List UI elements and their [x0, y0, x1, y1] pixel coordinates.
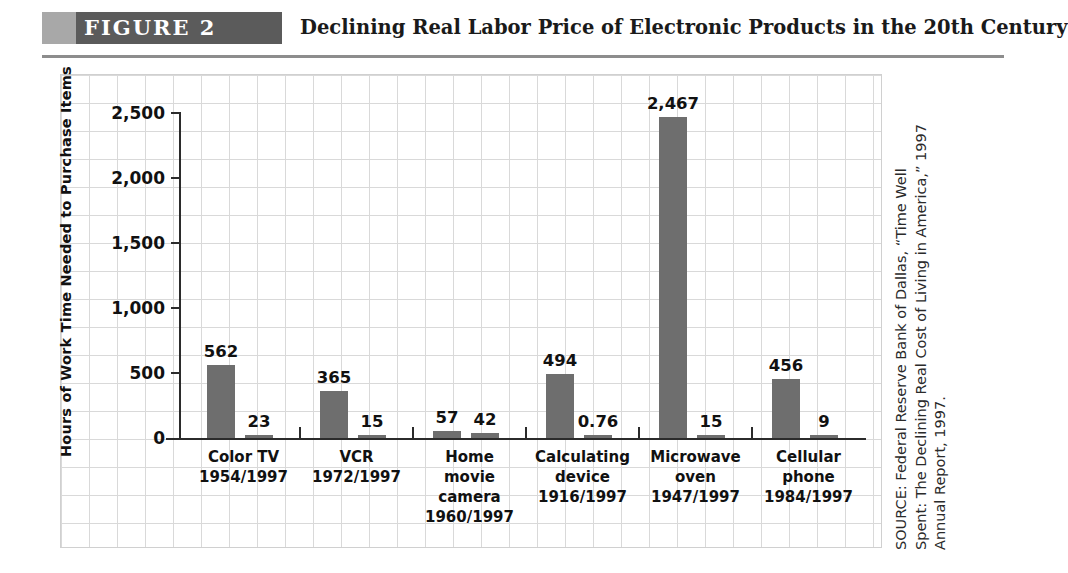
bar: [659, 117, 687, 438]
category-label-line: 1984/1997: [734, 487, 884, 507]
figure-number-label: FIGURE 2: [84, 12, 216, 44]
bar-value-label: 42: [449, 411, 521, 428]
figure-header: FIGURE 2 Declining Real Labor Price of E…: [0, 0, 1017, 62]
category-label-line: 1960/1997: [395, 507, 545, 527]
plot-area: 562233651557424940.762,467154569: [181, 113, 864, 438]
bar-value-label: 23: [223, 413, 295, 430]
category-label-line: phone: [734, 467, 884, 487]
bar: [358, 435, 386, 438]
bar-group: 4569: [752, 113, 865, 438]
y-axis-tick-label: 2,000: [95, 170, 165, 187]
figure-banner-cap: [42, 12, 76, 44]
y-axis-tick-label: 1,000: [95, 300, 165, 317]
source-note: SOURCE: Federal Reserve Bank of Dallas, …: [892, 120, 951, 550]
bar: [697, 435, 725, 438]
chart-area: Hours of Work Time Needed to Purchase It…: [60, 74, 882, 548]
bar: [810, 435, 838, 438]
bar-value-label: 15: [675, 413, 747, 430]
y-axis-tick-label: 500: [95, 365, 165, 382]
bar-group: 2,46715: [639, 113, 752, 438]
bar-value-label: 9: [788, 413, 860, 430]
x-axis-category-label: Cellularphone1984/1997: [734, 447, 884, 507]
y-axis-tick: [171, 242, 181, 244]
bar-group: 36515: [300, 113, 413, 438]
y-axis-title: Hours of Work Time Needed to Purchase It…: [55, 77, 77, 457]
bar-value-label: 365: [298, 369, 370, 386]
y-axis-tick: [171, 112, 181, 114]
bar-value-label: 456: [750, 357, 822, 374]
x-axis-line: [166, 438, 866, 440]
y-axis-tick: [171, 177, 181, 179]
bar: [245, 435, 273, 438]
header-divider: [42, 55, 1004, 58]
y-axis-tick: [171, 372, 181, 374]
bar-group: 56223: [187, 113, 300, 438]
bar-value-label: 2,467: [637, 95, 709, 112]
bar-value-label: 562: [185, 343, 257, 360]
bar-group: 4940.76: [526, 113, 639, 438]
y-axis-tick: [171, 307, 181, 309]
bar: [433, 431, 461, 438]
figure-title: Declining Real Labor Price of Electronic…: [300, 13, 1068, 43]
bar-value-label: 494: [524, 352, 596, 369]
y-axis-tick-label: 1,500: [95, 235, 165, 252]
y-axis-tick-label: 0: [95, 430, 165, 447]
bar-value-label: 15: [336, 413, 408, 430]
bar: [584, 435, 612, 438]
bar: [471, 433, 499, 438]
bar-group: 5742: [413, 113, 526, 438]
bar-value-label: 0.76: [562, 413, 634, 430]
y-axis-tick-label: 2,500: [95, 105, 165, 122]
category-label-line: Cellular: [734, 447, 884, 467]
